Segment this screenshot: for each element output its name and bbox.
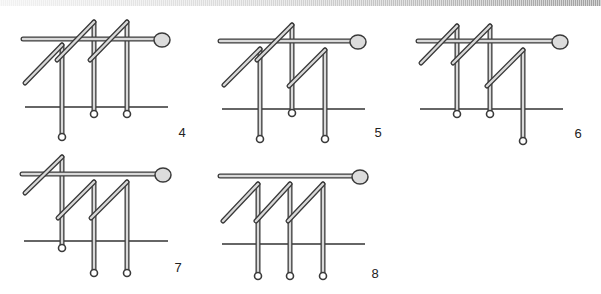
- figure-8: 8: [220, 170, 379, 281]
- diagram-canvas: 45678: [0, 0, 601, 294]
- figure-number-label: 6: [574, 126, 581, 141]
- hook-diagonal-1: [25, 45, 62, 83]
- hook-diagonal-1: [224, 49, 260, 85]
- hook-loop-icon: [59, 134, 66, 141]
- hook-loop-icon: [289, 110, 296, 117]
- hook-loop-icon: [257, 136, 264, 143]
- figure-number-label: 5: [374, 125, 381, 140]
- figure-4: 4: [23, 22, 186, 141]
- figure-number-label: 7: [174, 260, 181, 275]
- hook-diagonal-2: [256, 184, 290, 221]
- hook-loop-icon: [124, 270, 131, 277]
- ball-head-icon: [155, 168, 171, 182]
- hook-loop-icon: [59, 245, 66, 252]
- ball-head-icon: [352, 170, 368, 184]
- figure-number-label: 4: [178, 125, 185, 140]
- hook-loop-icon: [91, 270, 98, 277]
- ball-head-icon: [154, 33, 170, 47]
- hook-diagonal-1: [421, 26, 457, 63]
- hook-loop-icon: [320, 273, 327, 280]
- hook-loop-icon: [255, 273, 262, 280]
- figure-5: 5: [220, 25, 382, 143]
- ball-head-icon: [552, 35, 568, 49]
- figure-6: 6: [418, 26, 582, 145]
- ball-head-icon: [350, 35, 366, 49]
- hook-loop-icon: [487, 111, 494, 118]
- hook-loop-icon: [91, 111, 98, 118]
- hook-diagonal-3: [288, 184, 323, 221]
- figure-7: 7: [22, 157, 182, 277]
- hook-loop-icon: [124, 111, 131, 118]
- hook-loop-icon: [454, 111, 461, 118]
- hook-diagonal-1: [223, 184, 258, 221]
- hook-loop-icon: [287, 273, 294, 280]
- figure-number-label: 8: [371, 266, 378, 281]
- hook-loop-icon: [322, 136, 329, 143]
- hook-loop-icon: [520, 138, 527, 145]
